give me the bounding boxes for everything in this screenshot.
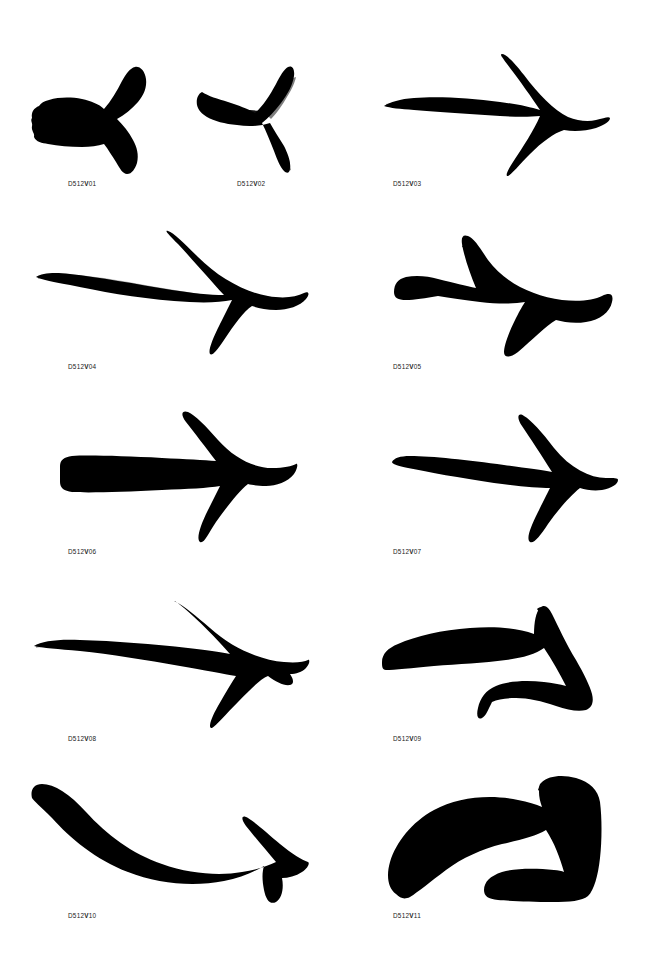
glyph-label-a04: D512V04	[68, 364, 96, 370]
brush-stroke	[31, 67, 146, 174]
glyph-label-a11: D512V11	[393, 913, 421, 919]
arrow-glyph-a10	[28, 774, 310, 904]
glyph-label-a09: D512V09	[393, 736, 421, 742]
arrow-glyph-a02	[196, 50, 324, 174]
arrow-glyph-a05	[392, 234, 614, 358]
arrow-glyph-a07	[390, 410, 618, 544]
glyph-label-a05: D512V05	[393, 364, 421, 370]
arrow-glyph-a01	[28, 46, 158, 174]
brush-stroke	[34, 601, 309, 728]
arrow-glyph-a11	[386, 770, 614, 902]
brush-stroke	[31, 784, 308, 903]
specimen-sheet: D512V01 D512V02 D512V03 D512V04	[0, 0, 650, 959]
glyph-label-a06: D512V06	[68, 549, 96, 555]
arrow-glyph-a04	[32, 230, 310, 356]
glyph-label-a10: D512V10	[68, 913, 96, 919]
brush-stroke	[382, 606, 593, 719]
glyph-label-a01: D512V01	[68, 181, 96, 187]
arrow-glyph-a09	[380, 598, 612, 728]
brush-stroke	[388, 776, 602, 902]
glyph-label-a08: D512V08	[68, 736, 96, 742]
brush-stroke	[394, 235, 613, 356]
brush-stroke	[60, 411, 297, 542]
glyph-label-a07: D512V07	[393, 549, 421, 555]
arrow-glyph-a06	[58, 410, 298, 544]
brush-stroke	[392, 415, 618, 543]
glyph-label-a03: D512V03	[393, 181, 421, 187]
glyph-label-a02: D512V02	[237, 181, 265, 187]
arrow-glyph-a03	[382, 54, 610, 176]
arrow-glyph-a08	[32, 600, 310, 728]
brush-stroke	[384, 54, 610, 176]
